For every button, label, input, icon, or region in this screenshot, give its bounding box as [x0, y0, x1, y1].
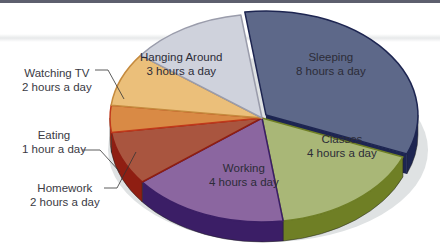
homework-sub: 2 hours a day: [30, 195, 100, 209]
eating-title: Eating: [22, 128, 86, 142]
sleeping-title: Sleeping: [296, 50, 366, 64]
pie-chart: [0, 0, 440, 249]
working-title: Working: [209, 161, 279, 175]
classes-title: Classes: [307, 132, 377, 146]
slice-label-hanging-around: Hanging Around 3 hours a day: [140, 50, 222, 78]
slice-label-working: Working 4 hours a day: [209, 161, 279, 189]
eating-sub: 1 hour a day: [22, 142, 86, 156]
sleeping-sub: 8 hours a day: [296, 64, 366, 78]
ext-label-homework: Homework 2 hours a day: [30, 181, 100, 209]
watching-tv-sub: 2 hours a day: [22, 80, 92, 94]
hanging-around-sub: 3 hours a day: [140, 64, 222, 78]
homework-title: Homework: [30, 181, 100, 195]
hanging-around-title: Hanging Around: [140, 50, 222, 64]
classes-sub: 4 hours a day: [307, 146, 377, 160]
slice-label-sleeping: Sleeping 8 hours a day: [296, 50, 366, 78]
watching-tv-title: Watching TV: [22, 66, 92, 80]
slice-label-classes: Classes 4 hours a day: [307, 132, 377, 160]
ext-label-watching-tv: Watching TV 2 hours a day: [22, 66, 92, 94]
ext-label-eating: Eating 1 hour a day: [22, 128, 86, 156]
working-sub: 4 hours a day: [209, 175, 279, 189]
